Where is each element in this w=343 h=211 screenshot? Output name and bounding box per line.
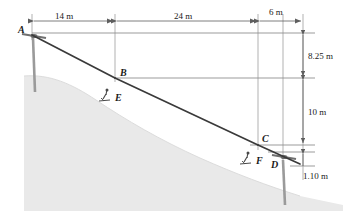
dimension-label-6m: 6 m (269, 8, 283, 17)
cable-segment-A-B (32, 35, 115, 78)
point-label-A: A (18, 25, 25, 35)
point-label-F: F (256, 156, 263, 166)
cable-segment-C-D (258, 145, 300, 164)
hillside-terrain (24, 76, 343, 211)
ski-lift-cable-diagram: A B C D E F 14 m 24 m 6 m 8.25 m 10 m 1.… (0, 0, 343, 211)
point-label-B: B (120, 68, 127, 78)
point-label-D: D (271, 160, 278, 170)
point-label-C: C (262, 134, 269, 144)
dimension-label-10m: 10 m (308, 108, 326, 117)
point-label-E: E (115, 93, 122, 103)
skier-figure-E (99, 89, 110, 102)
dimension-label-8-25m: 8.25 m (308, 52, 333, 61)
dimension-label-14m: 14 m (55, 12, 73, 21)
dimension-label-1-10m: 1.10 m (303, 172, 328, 181)
diagram-canvas (0, 0, 343, 211)
dimension-label-24m: 24 m (174, 12, 192, 21)
skier-figure-F (240, 152, 251, 165)
